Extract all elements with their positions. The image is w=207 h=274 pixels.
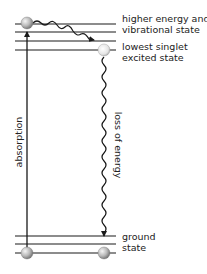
electron-ground-ball-right <box>98 247 110 259</box>
label-loss-of-energy: loss of energy <box>113 112 124 179</box>
label-ground-state: ground state <box>122 231 156 253</box>
label-higher-energy-line2: vibrational state <box>122 24 207 35</box>
loss-of-energy-wavy-arrow <box>102 57 106 236</box>
electron-upper-ball <box>21 17 33 29</box>
label-lowest-singlet-line2: excited state <box>122 52 188 63</box>
label-lowest-singlet: lowest singlet excited state <box>122 41 188 63</box>
label-ground-state-line1: ground <box>122 231 156 242</box>
label-higher-energy-line1: higher energy and <box>122 13 207 24</box>
label-absorption: absorption <box>13 117 24 168</box>
label-ground-state-line2: state <box>122 242 156 253</box>
electron-singlet-ball <box>98 44 110 56</box>
label-lowest-singlet-line1: lowest singlet <box>122 41 188 52</box>
electron-ground-ball-left <box>21 247 33 259</box>
label-higher-energy: higher energy and vibrational state <box>122 13 207 35</box>
